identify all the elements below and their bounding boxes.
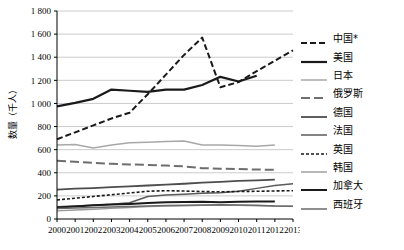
y-tick-label: 1 600	[31, 29, 52, 39]
legend-swatch-icon	[300, 53, 328, 63]
series-line-4	[57, 180, 275, 190]
plot-area: 02004006008001 0001 2001 4001 6001 800 2…	[0, 0, 300, 250]
x-tick-label: 2010	[230, 225, 249, 235]
series-line-3	[57, 161, 275, 170]
x-axis-tick-labels: 2000200120022003200420052006200720082009…	[48, 225, 300, 235]
legend-label: 西班牙	[333, 200, 363, 210]
legend-item-1[interactable]: 美国	[300, 48, 404, 66]
legend-item-2[interactable]: 日本	[300, 67, 404, 85]
legend-item-5[interactable]: 法国	[300, 122, 404, 140]
x-tick-label: 2013	[284, 225, 300, 235]
line-chart-svg: 02004006008001 0001 2001 4001 6001 800 2…	[0, 0, 300, 250]
legend-label: 法国	[333, 126, 353, 136]
legend-swatch-icon	[300, 145, 328, 155]
legend-swatch-icon	[300, 163, 328, 173]
x-tick-label: 2008	[193, 225, 212, 235]
x-tick-label: 2001	[66, 225, 84, 235]
y-tick-label: 600	[38, 145, 52, 155]
legend-label: 韩国	[333, 163, 353, 173]
y-tick-label: 1 000	[31, 99, 52, 109]
x-tick-label: 2006	[157, 225, 176, 235]
y-tick-label: 400	[38, 168, 52, 178]
y-axis-title: 数量（千人）	[6, 57, 19, 167]
y-tick-label: 1 800	[31, 6, 52, 16]
legend-item-3[interactable]: 俄罗斯	[300, 85, 404, 103]
legend-item-8[interactable]: 加拿大	[300, 177, 404, 195]
legend-swatch-icon	[300, 181, 328, 191]
x-tick-label: 2002	[84, 225, 102, 235]
legend-swatch-icon	[300, 200, 328, 210]
y-tick-label: 200	[38, 191, 52, 201]
data-series-layer	[57, 38, 293, 211]
chart-root: 02004006008001 0001 2001 4001 6001 800 2…	[0, 0, 404, 250]
legend-item-0[interactable]: 中国*	[300, 30, 404, 48]
legend-label: 英国	[333, 145, 353, 155]
y-axis-ticks: 02004006008001 0001 2001 4001 6001 800	[31, 6, 57, 224]
legend-label: 中国*	[333, 34, 358, 44]
legend-label: 美国	[333, 53, 353, 63]
y-tick-label: 0	[47, 214, 52, 224]
x-tick-label: 2011	[248, 225, 266, 235]
legend-item-4[interactable]: 德国	[300, 104, 404, 122]
legend-label: 日本	[333, 71, 353, 81]
legend-item-6[interactable]: 英国	[300, 140, 404, 158]
y-tick-label: 1 400	[31, 52, 52, 62]
x-tick-label: 2009	[211, 225, 230, 235]
legend-swatch-icon	[300, 108, 328, 118]
series-line-2	[57, 141, 275, 148]
x-tick-label: 2003	[102, 225, 121, 235]
series-line-0	[57, 38, 293, 140]
y-tick-label: 1 200	[31, 76, 52, 86]
x-tick-label: 2012	[266, 225, 284, 235]
legend-label: 俄罗斯	[333, 89, 363, 99]
legend-swatch-icon	[300, 89, 328, 99]
chart-legend: 中国*美国日本俄罗斯德国法国英国韩国加拿大西班牙	[300, 30, 404, 214]
legend-label: 加拿大	[333, 181, 363, 191]
x-tick-label: 2005	[139, 225, 158, 235]
legend-label: 德国	[333, 108, 353, 118]
legend-swatch-icon	[300, 126, 328, 136]
legend-swatch-icon	[300, 71, 328, 81]
x-tick-label: 2000	[48, 225, 67, 235]
legend-swatch-icon	[300, 34, 328, 44]
legend-item-7[interactable]: 韩国	[300, 159, 404, 177]
x-tick-label: 2004	[121, 225, 140, 235]
legend-item-9[interactable]: 西班牙	[300, 196, 404, 214]
y-tick-label: 800	[38, 122, 52, 132]
x-tick-label: 2007	[175, 225, 194, 235]
gridlines	[57, 11, 293, 196]
